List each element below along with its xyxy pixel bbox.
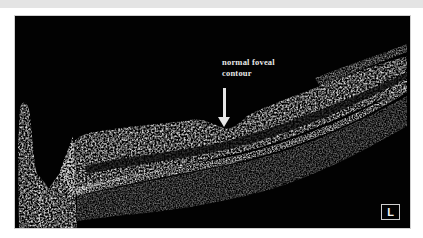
oct-scan-image <box>15 16 410 228</box>
arrow-down-icon <box>223 88 226 118</box>
annotation-line-1: normal foveal <box>222 57 275 68</box>
top-band <box>0 0 423 8</box>
annotation-line-2: contour <box>222 68 252 79</box>
arrow-head-icon <box>218 117 230 127</box>
eye-side-badge: L <box>381 204 400 220</box>
retina-layers-graphic <box>15 16 410 228</box>
